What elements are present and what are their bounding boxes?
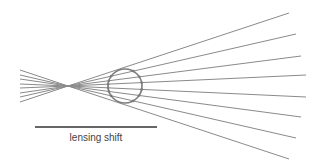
ring-marker [140,81,143,84]
ring-marker [138,94,141,97]
ring-marker [110,75,113,78]
incoming-ray [20,86,68,102]
ring-marker [140,88,143,91]
lens-ring [108,69,142,103]
outgoing-ray [68,86,289,159]
outgoing-ray [68,56,301,86]
outgoing-ray [68,75,306,86]
lensing-shift-label: lensing shift [35,132,157,143]
ring-marker [132,70,135,73]
outgoing-ray [68,13,289,86]
ring-marker [138,76,141,79]
ring-marker [132,100,135,103]
ring-marker [108,90,111,93]
incoming-ray [20,70,68,86]
ring-marker [110,95,113,98]
outgoing-ray [68,86,306,97]
ring-marker [107,87,110,90]
ring-marker [108,79,111,82]
outgoing-ray [68,34,296,86]
ring-marker [107,83,110,86]
incoming-rays [20,70,68,102]
